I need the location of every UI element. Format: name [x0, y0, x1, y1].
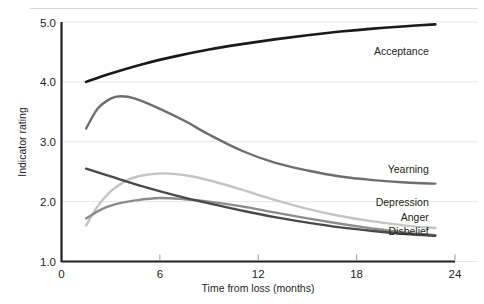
series-label-disbelief: Disbelief [388, 225, 428, 237]
y-axis-title: Indicator rating [16, 107, 28, 177]
series-label-yearning: Yearning [388, 163, 429, 175]
y-tick-label-4: 5.0 [40, 17, 56, 29]
grief-indicator-line-chart: 1.02.03.04.05.0 06121824 AcceptanceYearn… [0, 0, 484, 304]
series-label-depression: Depression [376, 196, 429, 208]
series-label-anger: Anger [401, 211, 430, 223]
x-tick-label-2: 12 [252, 268, 265, 280]
x-tick-label-0: 0 [58, 268, 64, 280]
x-tick-label-3: 18 [350, 268, 363, 280]
x-tick-label-1: 6 [157, 268, 163, 280]
y-tick-label-0: 1.0 [40, 256, 56, 268]
y-tick-label-1: 2.0 [40, 196, 56, 208]
x-tick-label-4: 24 [449, 268, 462, 280]
y-tick-label-2: 3.0 [40, 136, 56, 148]
x-axis-title: Time from loss (months) [202, 282, 315, 294]
chart-container: 1.02.03.04.05.0 06121824 AcceptanceYearn… [0, 0, 484, 304]
y-tick-label-3: 4.0 [40, 76, 56, 88]
series-label-acceptance: Acceptance [374, 45, 429, 57]
